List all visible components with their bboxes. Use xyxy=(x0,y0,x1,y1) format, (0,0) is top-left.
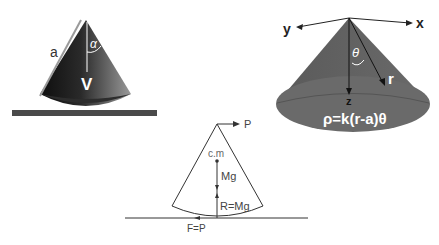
x-axis xyxy=(349,18,410,23)
weight-label: Mg xyxy=(221,170,236,182)
friction-label: F=P xyxy=(187,223,206,234)
vertex-label: V xyxy=(81,75,93,94)
side-label: a xyxy=(50,44,58,60)
right-cone-figure: y x z θ r ρ=k(r-a)θ xyxy=(276,15,430,132)
density-formula: ρ=k(r-a)θ xyxy=(323,110,387,127)
center-of-mass-label: c.m xyxy=(208,148,224,159)
radius-label: r xyxy=(388,70,394,87)
free-body-diagram xyxy=(125,121,308,220)
z-axis-label: z xyxy=(346,95,352,107)
left-cone-figure: a α V xyxy=(12,20,157,116)
p-arrow-icon xyxy=(233,121,240,127)
diagram-canvas: a α V y x z θ r ρ=k(r-a)θ P xyxy=(0,0,439,245)
y-axis xyxy=(298,18,349,27)
weight-arrow-icon xyxy=(215,185,219,190)
angle-label: α xyxy=(90,37,98,51)
free-body-labels: P c.m Mg R=Mg F=P xyxy=(187,118,251,234)
ground-plate xyxy=(12,110,157,116)
force-p-label: P xyxy=(244,118,251,130)
theta-label: θ xyxy=(352,45,359,60)
x-arrow-icon xyxy=(406,20,413,26)
reaction-label: R=Mg xyxy=(220,200,250,212)
y-axis-label: y xyxy=(283,21,291,37)
y-arrow-icon xyxy=(296,24,303,30)
reaction-arrow-icon xyxy=(215,193,219,198)
x-axis-label: x xyxy=(416,15,424,31)
friction-arrow-icon xyxy=(194,216,200,220)
